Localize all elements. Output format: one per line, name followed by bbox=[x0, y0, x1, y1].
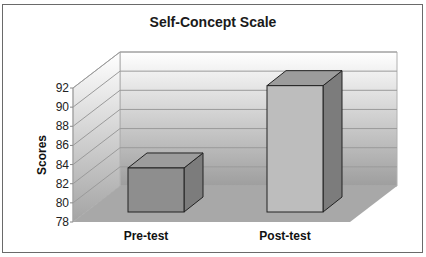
y-tick-label: 78 bbox=[56, 215, 70, 229]
y-tick-label: 86 bbox=[56, 138, 70, 152]
chart-walls bbox=[73, 52, 397, 222]
y-tick-label: 90 bbox=[56, 100, 70, 114]
x-axis-categories: Pre-testPost-test bbox=[124, 229, 311, 243]
y-axis-label: Scores bbox=[35, 135, 49, 175]
y-tick-label: 84 bbox=[56, 158, 70, 172]
chart-plot-area: 7880828486889092 Pre-testPost-test Score… bbox=[0, 0, 426, 257]
bar-post-test bbox=[267, 71, 342, 212]
floor bbox=[73, 186, 397, 222]
y-tick-label: 88 bbox=[56, 119, 70, 133]
y-tick-label: 92 bbox=[56, 81, 70, 95]
y-axis-ticks: 7880828486889092 bbox=[56, 81, 73, 229]
y-tick-label: 80 bbox=[56, 196, 70, 210]
y-tick-label: 82 bbox=[56, 177, 70, 191]
bar-pre-test bbox=[128, 153, 203, 212]
x-category-label: Post-test bbox=[259, 229, 310, 243]
x-category-label: Pre-test bbox=[124, 229, 169, 243]
